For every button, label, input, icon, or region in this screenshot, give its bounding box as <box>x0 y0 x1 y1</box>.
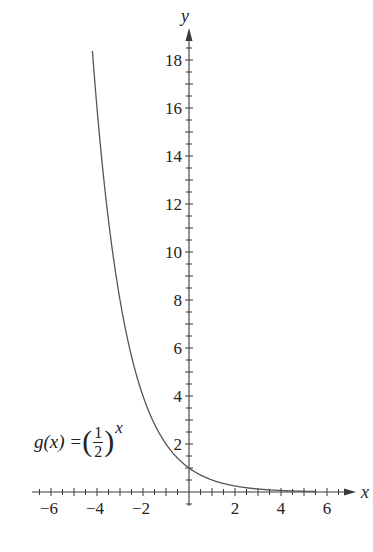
function-label: g(x) = ( 1 2 ) x <box>34 424 123 459</box>
y-tick-label: 6 <box>174 339 183 358</box>
x-tick-label: −6 <box>40 499 58 518</box>
fraction: 1 2 <box>93 425 103 460</box>
y-tick-label: 16 <box>165 99 182 118</box>
open-paren: ( <box>82 426 92 456</box>
x-tick-label: 2 <box>231 499 240 518</box>
x-tick-label: 6 <box>323 499 332 518</box>
x-axis-label: x <box>360 482 369 502</box>
exponent: x <box>115 418 123 438</box>
x-tick-label: −2 <box>132 499 150 518</box>
fraction-numerator: 1 <box>93 425 103 443</box>
x-axis-arrow-icon <box>344 489 356 496</box>
x-tick-labels: −6−4−2246 <box>40 499 331 518</box>
y-tick-label: 14 <box>165 147 183 166</box>
y-tick-label: 8 <box>174 291 183 310</box>
y-tick-label: 18 <box>165 51 182 70</box>
y-axis-arrow-icon <box>186 28 193 41</box>
y-tick-labels: 24681012141618 <box>165 51 183 454</box>
function-label-prefix: g(x) = <box>34 431 82 453</box>
chart-canvas: −6−4−2246 24681012141618 x y <box>0 0 373 552</box>
y-tick-label: 10 <box>165 243 182 262</box>
x-tick-label: 4 <box>277 499 286 518</box>
close-paren: ) <box>104 426 114 456</box>
y-tick-label: 4 <box>174 387 183 406</box>
y-axis-label: y <box>179 6 189 26</box>
function-curve <box>92 51 315 492</box>
x-tick-label: −4 <box>86 499 105 518</box>
y-tick-label: 2 <box>174 435 183 454</box>
y-tick-label: 12 <box>165 195 182 214</box>
fraction-denominator: 2 <box>94 443 102 460</box>
